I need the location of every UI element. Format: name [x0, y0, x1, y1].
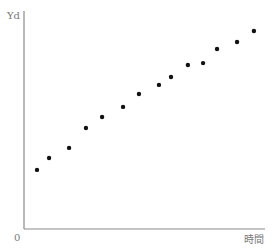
y-axis-label: Yd: [7, 11, 20, 21]
data-point: [47, 156, 51, 160]
data-point: [186, 63, 190, 67]
data-points: [35, 29, 256, 172]
data-point: [100, 115, 104, 119]
data-point: [84, 126, 88, 130]
data-point: [252, 29, 256, 33]
data-point: [121, 105, 125, 109]
data-point: [169, 75, 173, 79]
x-axis-label: 時間: [244, 235, 264, 245]
data-point: [235, 40, 239, 44]
data-point: [137, 92, 141, 96]
data-point: [201, 61, 205, 65]
origin-label: 0: [14, 233, 20, 243]
data-point: [67, 146, 71, 150]
data-point: [215, 47, 219, 51]
scatter-chart: [0, 0, 272, 250]
data-point: [35, 168, 39, 172]
data-point: [157, 83, 161, 87]
